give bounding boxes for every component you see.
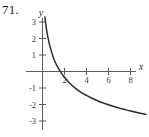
- x-axis-label: x: [138, 61, 144, 72]
- x-tick-label-4: 4: [84, 75, 89, 85]
- figure-container: 71. 2 4 6 8 3 2 1 -1 -2 -3 y x: [0, 0, 149, 137]
- x-tick-label-8: 8: [128, 75, 132, 85]
- y-tick-label-neg2: -2: [29, 100, 36, 110]
- y-tick-label-1: 1: [32, 50, 36, 60]
- y-tick-label-neg1: -1: [29, 83, 36, 93]
- plotted-curve: [45, 17, 146, 114]
- y-tick-label-2: 2: [32, 34, 36, 44]
- coordinate-plot: 2 4 6 8 3 2 1 -1 -2 -3 y x: [0, 0, 149, 137]
- y-tick-label-neg3: -3: [29, 116, 36, 126]
- x-tick-label-6: 6: [106, 75, 110, 85]
- y-axis-label: y: [38, 7, 44, 18]
- y-tick-label-3: 3: [32, 17, 36, 27]
